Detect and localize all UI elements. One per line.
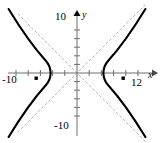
asymptote-positive-slope-line bbox=[18, 4, 146, 132]
plot-canvas bbox=[0, 0, 163, 143]
y-axis-arrowhead bbox=[74, 10, 81, 16]
x-axis-arrowhead bbox=[152, 70, 158, 77]
left-focus-point bbox=[35, 77, 38, 80]
y-axis-label: y bbox=[82, 10, 86, 20]
y-axis-tick-label-bottom: -10 bbox=[54, 120, 69, 131]
x-axis-label: x bbox=[148, 70, 152, 80]
right-focus-point bbox=[122, 77, 125, 80]
hyperbola-figure: -10 12 10 -10 x y bbox=[0, 0, 163, 143]
x-axis-tick-label-right: 12 bbox=[131, 77, 142, 88]
y-axis-tick-label-top: 10 bbox=[55, 11, 66, 22]
x-axis-tick-label-left: -10 bbox=[2, 74, 17, 85]
